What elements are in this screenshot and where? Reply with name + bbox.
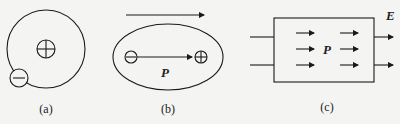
- polarization-label: P: [323, 42, 332, 57]
- positive-charge-icon: [195, 51, 207, 63]
- nucleus-plus-icon: [37, 40, 55, 58]
- negative-charge-icon: [125, 51, 137, 63]
- caption-a: (a): [39, 102, 52, 116]
- electron-minus-icon: [10, 69, 28, 87]
- diagram-canvas: (a) P (b) P E (c): [0, 0, 400, 124]
- caption-c: (c): [320, 100, 333, 114]
- dipole-label: P: [161, 65, 170, 80]
- caption-b: (b): [161, 102, 175, 116]
- panel-a: [7, 10, 85, 88]
- field-label: E: [385, 8, 395, 23]
- panel-c: [250, 18, 393, 82]
